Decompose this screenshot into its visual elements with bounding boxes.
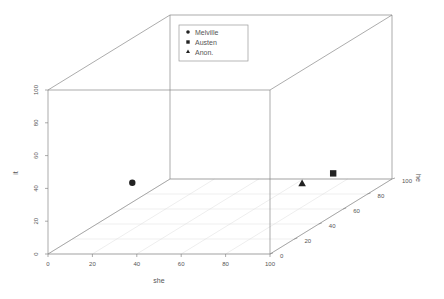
y-tick [392, 178, 395, 179]
data-points [129, 170, 336, 186]
legend-label-austen: Austen [195, 39, 217, 46]
x-tick-label: 0 [46, 261, 50, 267]
z-tick-label: 20 [33, 217, 39, 224]
x-tick-label: 80 [222, 261, 229, 267]
y-tick-label: 100 [402, 178, 413, 184]
x-tick-label: 20 [89, 261, 96, 267]
floor-grid [48, 179, 392, 254]
y-tick [343, 208, 346, 209]
y-tick-label: 60 [353, 208, 360, 214]
grid-line [226, 179, 348, 254]
grid-line [137, 179, 259, 254]
y-tick [270, 253, 273, 254]
x-tick-label: 100 [265, 261, 276, 267]
z-axis-label: it [12, 171, 19, 175]
y-tick-label: 80 [378, 193, 385, 199]
box-edge [48, 15, 170, 90]
z-tick-label: 40 [33, 184, 39, 191]
y-tick [368, 193, 371, 194]
legend-square-icon [186, 40, 189, 43]
legend-label-anon: Anon. [195, 49, 213, 56]
box-edge [48, 179, 170, 254]
y-tick-label: 40 [329, 223, 336, 229]
z-tick-label: 80 [33, 119, 39, 126]
point-austen [330, 170, 336, 176]
scatter3d-chart: 020406080100020406080100020406080100 she… [0, 0, 444, 299]
y-tick [319, 223, 322, 224]
legend-label-melville: Melville [195, 29, 218, 36]
x-tick-label: 60 [178, 261, 185, 267]
y-axis-label: he [415, 174, 422, 182]
y-tick-label: 20 [304, 238, 311, 244]
x-tick-label: 40 [133, 261, 140, 267]
z-tick-label: 0 [33, 252, 39, 256]
axis-labels: she he it [12, 171, 422, 284]
point-anon [298, 179, 306, 186]
z-tick-label: 60 [33, 152, 39, 159]
x-axis-label: she [153, 277, 164, 284]
y-tick-label: 0 [280, 253, 284, 259]
box-edge [270, 179, 392, 254]
y-tick [294, 238, 297, 239]
axis-ticks: 020406080100020406080100020406080100 [33, 84, 413, 267]
grid-line [181, 179, 303, 254]
legend-circle-icon [186, 30, 190, 34]
z-tick-label: 100 [33, 84, 39, 95]
point-melville [129, 180, 135, 186]
grid-line [92, 179, 214, 254]
box-edge [270, 15, 392, 90]
legend: Melville Austen Anon. [179, 25, 248, 61]
